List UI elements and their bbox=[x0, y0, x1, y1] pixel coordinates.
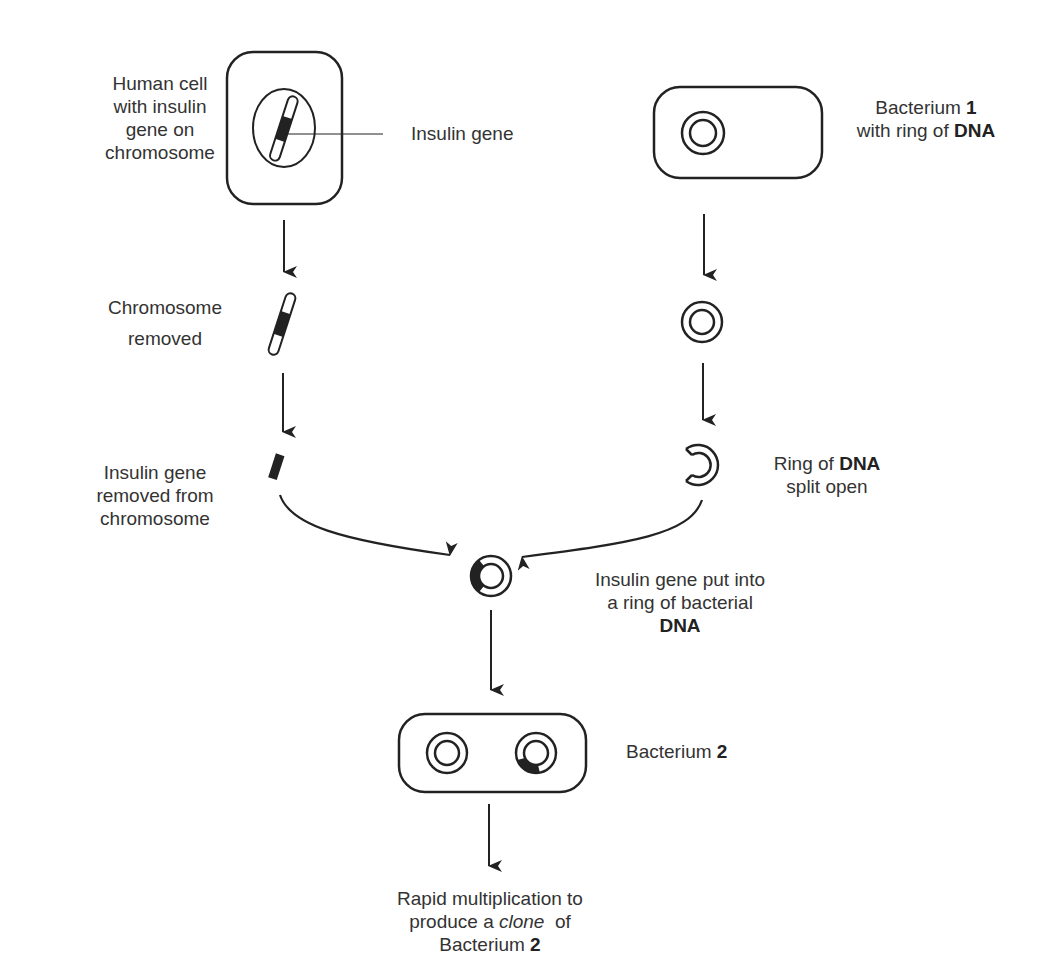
label-line: Chromosome bbox=[100, 296, 230, 319]
label-text: Ring of bbox=[774, 453, 839, 474]
label-line: produce a clone of bbox=[370, 910, 610, 933]
label-text: Bacterium bbox=[439, 934, 530, 955]
label-clone-italic: clone bbox=[499, 911, 544, 932]
label-chromosome-removed: Chromosome removed bbox=[100, 296, 230, 350]
label-line: Bacterium 2 bbox=[370, 933, 610, 956]
label-line: chromosome bbox=[95, 141, 225, 164]
bacterium-2 bbox=[399, 714, 586, 792]
arrow-curve-left bbox=[280, 495, 450, 555]
label-line: Bacterium 1 bbox=[836, 96, 1016, 119]
label-line: gene on bbox=[95, 118, 225, 141]
human-cell bbox=[227, 52, 383, 204]
label-line: a ring of bacterial bbox=[570, 591, 790, 614]
recombinant-dna-ring bbox=[471, 556, 511, 596]
insulin-gene-fragment bbox=[268, 453, 284, 480]
label-line: removed bbox=[100, 327, 230, 350]
chromosome-isolated bbox=[267, 292, 296, 356]
label-line: Insulin gene bbox=[85, 461, 225, 484]
label-bacterium-1: Bacterium 1 with ring of DNA bbox=[836, 96, 1016, 142]
label-line: Human cell bbox=[95, 72, 225, 95]
label-clone: Rapid multiplication to produce a clone … bbox=[370, 887, 610, 956]
label-human-cell: Human cell with insulin gene on chromoso… bbox=[95, 72, 225, 164]
label-line: removed from bbox=[85, 484, 225, 507]
label-text: of bbox=[544, 911, 570, 932]
label-ring-split: Ring of DNA split open bbox=[752, 452, 902, 498]
label-number: 1 bbox=[966, 97, 977, 118]
label-line: Insulin gene put into bbox=[570, 568, 790, 591]
label-text: with ring of bbox=[857, 120, 954, 141]
label-dna: DNA bbox=[954, 120, 995, 141]
label-insulin-gene: Insulin gene bbox=[411, 122, 513, 145]
label-bacterium-2: Bacterium 2 bbox=[626, 740, 727, 763]
label-line: split open bbox=[752, 475, 902, 498]
dna-ring bbox=[682, 302, 722, 342]
label-dna: DNA bbox=[659, 615, 700, 636]
label-line: with ring of DNA bbox=[836, 119, 1016, 142]
bacterium-1 bbox=[654, 87, 822, 178]
label-gene-removed: Insulin gene removed from chromosome bbox=[85, 461, 225, 530]
label-number: 2 bbox=[717, 741, 728, 762]
label-number: 2 bbox=[530, 934, 541, 955]
dna-ring-split bbox=[686, 445, 718, 485]
label-text: Bacterium bbox=[626, 741, 717, 762]
label-line: with insulin bbox=[95, 95, 225, 118]
label-gene-put-into-ring: Insulin gene put into a ring of bacteria… bbox=[570, 568, 790, 637]
label-line: Ring of DNA bbox=[752, 452, 902, 475]
label-dna: DNA bbox=[839, 453, 880, 474]
label-line: chromosome bbox=[85, 507, 225, 530]
arrow-curve-right bbox=[522, 500, 702, 557]
label-text: produce a bbox=[409, 911, 499, 932]
label-text: Bacterium bbox=[875, 97, 966, 118]
label-line: Rapid multiplication to bbox=[370, 887, 610, 910]
